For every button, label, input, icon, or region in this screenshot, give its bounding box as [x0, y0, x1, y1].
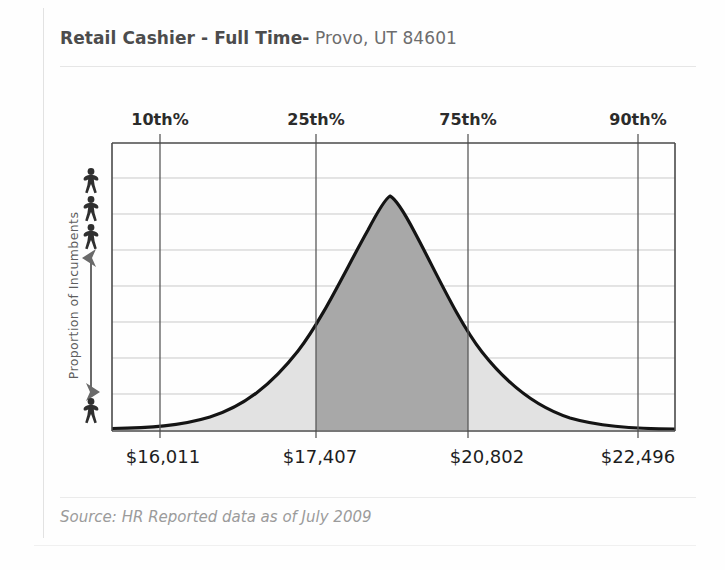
curve-fill-inner-iqr [112, 197, 675, 430]
salary-label-90: $22,496 [601, 446, 675, 467]
bell-curve-svg [0, 0, 725, 570]
y-axis-label: Proportion of Incumbents [66, 171, 81, 421]
percentile-label-10: 10th% [131, 110, 188, 129]
salary-label-25: $17,407 [283, 446, 357, 467]
percentile-label-90: 90th% [609, 110, 666, 129]
percentile-label-75: 75th% [439, 110, 496, 129]
footer-divider [60, 497, 696, 498]
person-icon-bottom [84, 398, 99, 423]
percentile-label-25: 25th% [287, 110, 344, 129]
salary-label-75: $20,802 [450, 446, 524, 467]
chart-plot-area: 10th% 25th% 75th% 90th% $16,011 $17,407 … [0, 0, 725, 570]
salary-label-10: $16,011 [126, 446, 200, 467]
source-note: Source: HR Reported data as of July 2009 [60, 508, 372, 526]
card-bottom-divider [34, 545, 696, 546]
salary-chart-card: Retail Cashier - Full Time- Provo, UT 84… [0, 0, 725, 570]
person-icon-group-top [84, 168, 99, 249]
